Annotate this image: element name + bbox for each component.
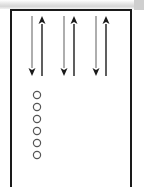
down-arrow-1 xyxy=(29,16,36,76)
circle-column xyxy=(33,91,40,158)
diagram-vector-layer xyxy=(0,0,144,187)
up-arrow-2-head xyxy=(71,16,78,24)
down-arrow-2 xyxy=(61,16,68,76)
circle-3 xyxy=(33,115,40,122)
circle-2 xyxy=(33,103,40,110)
arrow-pair-2 xyxy=(61,16,78,76)
up-arrow-2 xyxy=(71,16,78,76)
up-arrow-1 xyxy=(39,16,46,76)
up-arrow-3 xyxy=(103,16,110,76)
circle-1 xyxy=(33,91,40,98)
diagram-canvas xyxy=(0,0,144,187)
up-arrow-1-head xyxy=(39,16,46,24)
arrow-pair-1 xyxy=(29,16,46,76)
arrow-pair-3 xyxy=(93,16,110,76)
down-arrow-1-head xyxy=(29,68,36,76)
circle-4 xyxy=(33,127,40,134)
down-arrow-2-head xyxy=(61,68,68,76)
down-arrow-3-head xyxy=(93,68,100,76)
circle-6 xyxy=(33,151,40,158)
down-arrow-3 xyxy=(93,16,100,76)
up-arrow-3-head xyxy=(103,16,110,24)
circle-5 xyxy=(33,139,40,146)
